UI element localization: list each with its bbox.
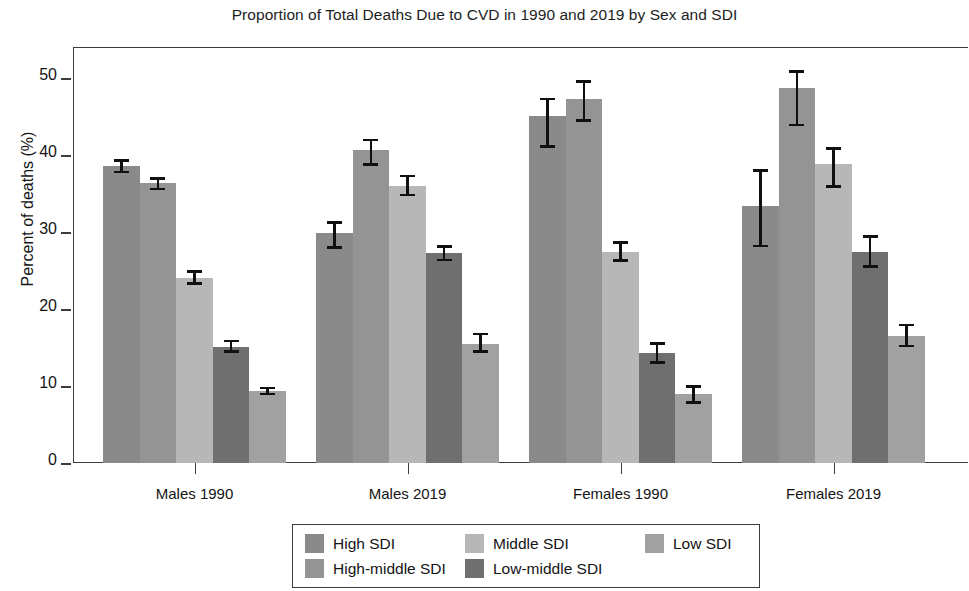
- x-tick-label: Males 2019: [318, 485, 498, 502]
- legend-label: Low-middle SDI: [493, 560, 602, 578]
- y-tick-label: 50: [39, 66, 57, 84]
- error-bar-cap-upper: [753, 169, 768, 172]
- error-bar-cap-upper: [650, 342, 665, 345]
- error-bar-line: [370, 139, 373, 166]
- error-bar-cap-lower: [187, 282, 202, 285]
- error-bar-cap-lower: [363, 163, 378, 166]
- y-tick-30: 30: [45, 232, 71, 234]
- legend-swatch-icon: [305, 559, 324, 578]
- legend-swatch-icon: [465, 559, 484, 578]
- x-tick-line: [408, 463, 410, 474]
- bar: [176, 278, 213, 463]
- legend-item: High SDI: [305, 534, 465, 553]
- legend-label: High-middle SDI: [333, 560, 446, 578]
- error-bar-cap-upper: [473, 333, 488, 336]
- bar: [602, 252, 639, 463]
- y-tick-line: [61, 309, 71, 311]
- error-bar-cap-upper: [260, 387, 275, 390]
- error-bar-cap-upper: [400, 175, 415, 178]
- x-tick-line: [195, 463, 197, 474]
- bar: [852, 252, 889, 463]
- error-bar-cap-lower: [789, 124, 804, 127]
- page-title: Proportion of Total Deaths Due to CVD in…: [0, 6, 969, 24]
- error-bar-line: [759, 169, 762, 247]
- bar: [103, 166, 140, 463]
- x-tick-label: Males 1990: [105, 485, 285, 502]
- bar: [316, 233, 353, 463]
- bar: [779, 88, 816, 463]
- error-bar-cap-upper: [789, 70, 804, 73]
- legend-label: Middle SDI: [493, 535, 569, 553]
- error-bar-cap-upper: [863, 235, 878, 238]
- error-bar-cap-lower: [327, 246, 342, 249]
- bar: [249, 391, 286, 463]
- cvd-proportion-bar-chart-figure: Proportion of Total Deaths Due to CVD in…: [0, 0, 969, 591]
- bar: [639, 353, 676, 463]
- bar: [462, 344, 499, 463]
- legend-item: High-middle SDI: [305, 559, 465, 578]
- legend-swatch-icon: [465, 534, 484, 553]
- error-bar-cap-lower: [260, 393, 275, 396]
- y-tick-40: 40: [45, 155, 71, 157]
- bar: [815, 164, 852, 463]
- y-tick-20: 20: [45, 309, 71, 311]
- error-bar-cap-upper: [224, 340, 239, 343]
- error-bar-cap-lower: [400, 194, 415, 197]
- legend-item: Low-middle SDI: [465, 559, 645, 578]
- error-bar-cap-lower: [576, 119, 591, 122]
- bar: [389, 186, 426, 463]
- legend-swatch-icon: [645, 534, 664, 553]
- error-bar-cap-lower: [437, 259, 452, 262]
- legend-item: Low SDI: [645, 534, 749, 553]
- error-bar-cap-lower: [613, 259, 628, 262]
- x-tick-line: [621, 463, 623, 474]
- error-bar-line: [832, 147, 835, 188]
- error-bar-line: [796, 70, 799, 126]
- legend-label: Low SDI: [673, 535, 732, 553]
- x-tick-line: [834, 463, 836, 474]
- error-bar-cap-upper: [437, 245, 452, 248]
- x-tick-label: Females 1990: [531, 485, 711, 502]
- y-tick-50: 50: [45, 78, 71, 80]
- error-bar-cap-upper: [327, 221, 342, 224]
- plot-area: 01020304050 Males 1990Males 2019Females …: [73, 47, 969, 463]
- error-bar-cap-lower: [863, 265, 878, 268]
- error-bar-line: [583, 80, 586, 122]
- y-tick-label: 10: [39, 374, 57, 392]
- error-bar-cap-lower: [826, 185, 841, 188]
- y-axis-title: Percent of deaths (%): [19, 89, 37, 329]
- error-bar-cap-lower: [150, 188, 165, 191]
- error-bar-cap-upper: [540, 98, 555, 101]
- chart-legend: High SDIMiddle SDILow SDIHigh-middle SDI…: [292, 524, 760, 588]
- error-bar-line: [546, 98, 549, 148]
- legend-swatch-icon: [305, 534, 324, 553]
- bar: [353, 150, 390, 463]
- error-bar-cap-lower: [753, 245, 768, 248]
- error-bar-cap-lower: [473, 350, 488, 353]
- bar: [888, 336, 925, 463]
- legend-item: Middle SDI: [465, 534, 645, 553]
- error-bar-cap-lower: [650, 361, 665, 364]
- bar: [426, 253, 463, 463]
- error-bar-line: [905, 324, 908, 348]
- error-bar-cap-upper: [576, 80, 591, 83]
- error-bar-cap-upper: [899, 324, 914, 327]
- error-bar-cap-lower: [899, 345, 914, 348]
- error-bar-line: [869, 235, 872, 268]
- error-bar-cap-lower: [114, 171, 129, 174]
- y-tick-label: 20: [39, 297, 57, 315]
- y-tick-10: 10: [45, 386, 71, 388]
- y-tick-line: [61, 232, 71, 234]
- bar: [675, 394, 712, 463]
- y-tick-label: 40: [39, 143, 57, 161]
- error-bar-cap-upper: [613, 241, 628, 244]
- y-tick-line: [61, 155, 71, 157]
- error-bar-cap-lower: [540, 145, 555, 148]
- error-bar-cap-upper: [686, 385, 701, 388]
- error-bar-cap-upper: [114, 159, 129, 162]
- error-bar-cap-upper: [150, 177, 165, 180]
- y-tick-line: [61, 463, 71, 465]
- error-bar-cap-lower: [224, 350, 239, 353]
- y-tick-0: 0: [45, 463, 71, 465]
- y-tick-label: 30: [39, 220, 57, 238]
